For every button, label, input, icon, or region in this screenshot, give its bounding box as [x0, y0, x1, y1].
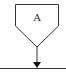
pentagon-node-shape — [16, 5, 59, 48]
arrowhead-icon — [33, 62, 41, 68]
node-label: A — [15, 12, 59, 24]
